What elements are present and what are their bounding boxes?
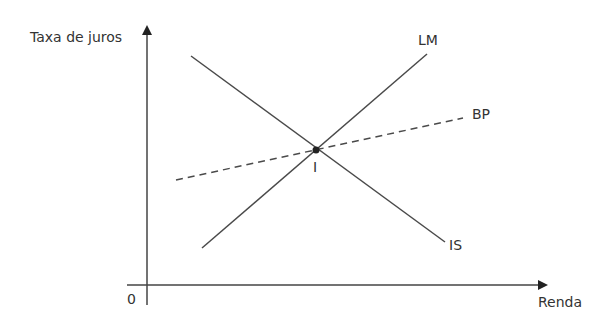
is-lm-bp-diagram xyxy=(0,0,599,326)
bp-curve xyxy=(176,118,463,180)
lm-label: LM xyxy=(418,33,438,47)
is-label: IS xyxy=(449,238,462,252)
equilibrium-label: I xyxy=(313,160,317,174)
origin-label: 0 xyxy=(127,292,136,306)
equilibrium-point xyxy=(313,147,320,154)
x-axis-label: Renda xyxy=(538,295,582,309)
y-axis-label: Taxa de juros xyxy=(30,30,122,44)
bp-label: BP xyxy=(472,107,490,121)
